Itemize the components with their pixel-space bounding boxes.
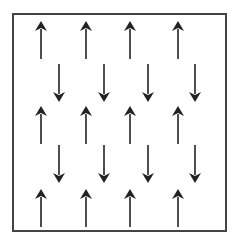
arrow-up-icon xyxy=(35,106,47,144)
spin-diagram xyxy=(0,0,237,240)
arrow-grid xyxy=(35,21,201,227)
arrow-down-icon xyxy=(189,64,201,102)
arrow-down-icon xyxy=(98,145,110,183)
arrow-up-icon xyxy=(80,106,92,144)
arrow-up-icon xyxy=(172,189,184,227)
arrow-down-icon xyxy=(53,145,65,183)
arrow-down-icon xyxy=(142,64,154,102)
arrow-up-icon xyxy=(35,21,47,59)
arrow-up-icon xyxy=(172,106,184,144)
arrow-up-icon xyxy=(124,189,136,227)
arrow-up-icon xyxy=(124,106,136,144)
arrow-down-icon xyxy=(98,64,110,102)
diagram-canvas xyxy=(0,0,237,240)
arrow-down-icon xyxy=(53,64,65,102)
arrow-down-icon xyxy=(142,145,154,183)
arrow-up-icon xyxy=(124,21,136,59)
frame-box xyxy=(13,14,226,231)
arrow-up-icon xyxy=(172,21,184,59)
arrow-up-icon xyxy=(80,189,92,227)
arrow-up-icon xyxy=(35,189,47,227)
arrow-down-icon xyxy=(189,145,201,183)
arrow-up-icon xyxy=(80,21,92,59)
